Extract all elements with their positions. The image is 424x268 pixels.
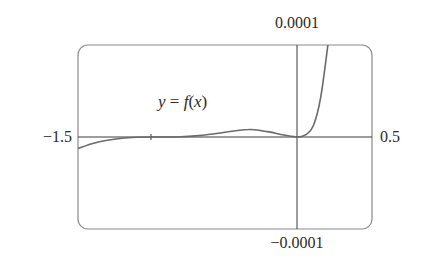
x-max-label: 0.5 (380, 129, 400, 145)
y-max-label: 0.0001 (275, 15, 319, 31)
y-min-label: −0.0001 (270, 235, 323, 251)
curve-annotation-close: ) (202, 92, 208, 111)
curve-annotation-y: y (158, 92, 166, 111)
x-min-label: −1.5 (43, 129, 72, 145)
curve-annotation: y = f(x) (158, 93, 207, 110)
curve-annotation-eq: = (166, 92, 184, 111)
curve-annotation-x: x (194, 92, 202, 111)
